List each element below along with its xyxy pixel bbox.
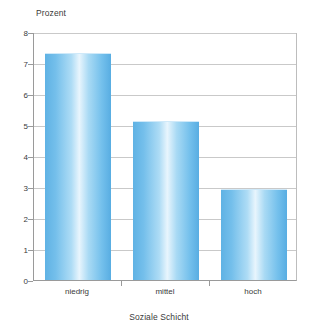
y-axis-title: Prozent: [36, 8, 66, 18]
x-axis-category-label: mittel: [121, 287, 209, 296]
y-axis-tick-mark: [28, 281, 33, 282]
y-axis-tick-label: 3: [4, 184, 28, 193]
plot-area: [33, 33, 297, 281]
x-axis-category-label: hoch: [209, 287, 297, 296]
y-axis-tick-label: 6: [4, 91, 28, 100]
x-axis-tick-mark: [209, 281, 210, 286]
y-axis-tick-label: 0: [4, 277, 28, 286]
y-axis-tick-label: 2: [4, 215, 28, 224]
y-axis-tick-label: 4: [4, 153, 28, 162]
bar-chart: Prozent 012345678 niedrigmittelhoch Sozi…: [0, 0, 318, 332]
bar: [221, 189, 287, 280]
x-axis-title: Soziale Schicht: [0, 312, 318, 322]
bar: [45, 53, 111, 280]
y-axis-tick-label: 1: [4, 246, 28, 255]
gridline: [34, 33, 296, 34]
y-axis-tick-label: 7: [4, 60, 28, 69]
x-axis-category-label: niedrig: [33, 287, 121, 296]
x-axis-tick-mark: [121, 281, 122, 286]
y-axis-tick-label: 5: [4, 122, 28, 131]
bar: [133, 121, 199, 280]
y-axis-tick-label: 8: [4, 29, 28, 38]
